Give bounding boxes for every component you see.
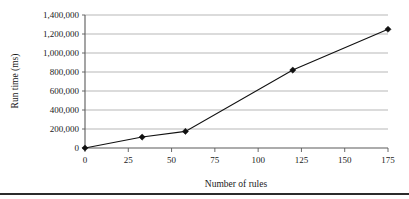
x-tick-label: 0	[83, 155, 88, 165]
run-time-line-chart: 0200,000400,000600,000800,0001,000,0001,…	[0, 0, 409, 199]
x-axis-tick-labels: 0255075100125150175	[83, 155, 396, 165]
x-tick-label: 125	[295, 155, 309, 165]
x-tick-label: 50	[167, 155, 177, 165]
y-tick-label: 600,000	[50, 86, 80, 96]
x-axis-title: Number of rules	[205, 179, 268, 189]
y-axis-title: Run time (ms)	[10, 54, 21, 109]
x-tick-label: 175	[381, 155, 395, 165]
y-tick-label: 0	[75, 143, 80, 153]
x-tick-label: 150	[338, 155, 352, 165]
plot-area-background	[85, 15, 388, 148]
x-axis-tick-marks	[85, 148, 388, 152]
x-tick-label: 25	[124, 155, 134, 165]
y-tick-label: 1,000,000	[43, 48, 80, 58]
y-axis-tick-labels: 0200,000400,000600,000800,0001,000,0001,…	[43, 10, 80, 153]
chart-figure: 0200,000400,000600,000800,0001,000,0001,…	[0, 0, 409, 199]
y-tick-label: 1,400,000	[43, 10, 80, 20]
y-tick-label: 800,000	[50, 67, 80, 77]
x-tick-label: 75	[210, 155, 220, 165]
y-tick-label: 200,000	[50, 124, 80, 134]
figure-footer-rule	[0, 193, 409, 195]
x-tick-label: 100	[251, 155, 265, 165]
y-tick-label: 400,000	[50, 105, 80, 115]
y-tick-label: 1,200,000	[43, 29, 80, 39]
